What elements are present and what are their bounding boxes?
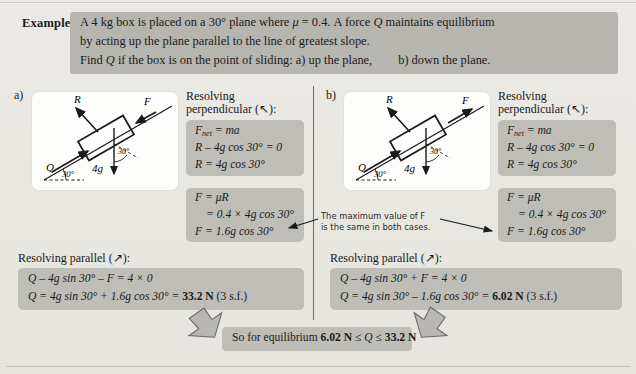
panel-b-perpendicular-block: Fnet = ma R – 4g cos 30° = 0 R = 4g cos … [498,120,616,176]
page-bottom-rule [6,366,630,367]
problem-line-2: by acting up the plane parallel to the l… [80,34,370,49]
svg-text:30°: 30° [429,147,442,156]
panel-a-par-eq-2-expr: Q = 4g sin 30° + 1.6g cos 30° = [28,290,182,303]
panel-b-perp-eq-3: R = 4g cos 30° [507,158,577,171]
panel-b-parallel-title: Resolving parallel (↗): [330,252,442,266]
problem-line-1-part-a: A 4 kg box is placed on a 30° plane wher… [80,15,292,29]
panel-b-perp-eq-1: Fnet = ma [507,124,552,138]
panel-a-parallel-block: Q – 4g sin 30° – F = 4 × 0 Q = 4g sin 30… [18,268,304,310]
panel-b-force-diagram: 30° R F Q 4g 30° [344,92,490,190]
fnet-ma-a: = ma [212,124,240,137]
label-R-b: R [385,93,393,105]
panel-a-parallel-title: Resolving parallel (↗): [18,252,130,266]
panel-b-par-eq-2-sf: (3 s.f.) [524,290,558,303]
conclusion-q: Q [364,331,372,344]
panel-a-perp-eq-2: R – 4g cos 30° = 0 [195,141,282,154]
annotation-note-line-2: is the same in both cases. [321,222,431,233]
panel-b-fric-eq-1: F = μR [507,191,541,204]
panel-a-perp-eq-3: R = 4g cos 30° [195,158,265,171]
label-Q-a: Q [46,161,54,173]
label-4g-a: 4g [92,162,104,174]
panel-a-fric-eq-2: = 0.4 × 4g cos 30° [206,208,294,221]
problem-statement-box: A 4 kg box is placed on a 30° plane wher… [70,12,618,74]
panel-b-perp-title-2: perpendicular (↖): [498,103,588,117]
conclusion-le-1: ≤ [352,331,364,344]
svg-text:30°: 30° [373,169,387,179]
label-F-a: F [143,95,151,107]
conclusion-min: 6.02 N [321,331,353,344]
problem-line-3: Find Q if the box is on the point of sli… [80,53,490,68]
panel-a-label: a) [14,88,23,103]
panel-a-force-diagram: 30° R F Q 4g 30° [32,92,178,190]
panel-b-fric-eq-2: = 0.4 × 4g cos 30° [518,208,606,221]
panel-b-par-eq-2-expr: Q = 4g sin 30° – 1.6g cos 30° = [340,290,492,303]
problem-line-3-part-b: if the box is on the point of sliding: a… [115,53,372,67]
conclusion-text: So for equilibrium 6.02 N ≤ Q ≤ 33.2 N [232,331,416,344]
problem-line-1-part-b: = 0.4. A force [299,15,374,29]
label-4g-b: 4g [404,162,416,174]
svg-text:30°: 30° [117,147,130,156]
panel-a-par-eq-2: Q = 4g sin 30° + 1.6g cos 30° = 33.2 N (… [28,290,247,303]
label-Q-b: Q [358,161,366,173]
fnet-ma-b: = ma [524,124,552,137]
panel-b-label: b) [326,88,336,103]
example-label: Example: [22,16,75,31]
fnet-sub-b: net [514,129,524,138]
panel-a-diagram-card: 30° R F Q 4g 30° [32,92,178,190]
page-top-rule [0,2,636,3]
problem-line-1: A 4 kg box is placed on a 30° plane wher… [80,15,495,30]
panel-b-fric-eq-3: F = 1.6g cos 30° [507,225,585,238]
example-header: Example: A 4 kg box is placed on a 30° p… [22,12,618,74]
panel-b-diagram-card: 30° R F Q 4g 30° [344,92,490,190]
panel-divider [313,86,314,320]
svg-text:30°: 30° [61,169,75,179]
panel-b-perp-eq-2: R – 4g cos 30° = 0 [507,141,594,154]
conclusion-max: 33.2 N [385,331,417,344]
annotation-note-line-1: The maximum value of F [321,211,425,222]
fnet-sub-a: net [202,129,212,138]
panel-b-par-eq-2: Q = 4g sin 30° – 1.6g cos 30° = 6.02 N (… [340,290,557,303]
panel-a-par-eq-1: Q – 4g sin 30° – F = 4 × 0 [28,272,153,285]
panel-a-friction-block: F = μR = 0.4 × 4g cos 30° F = 1.6g cos 3… [186,188,304,242]
panel-a-perp-title-2: perpendicular (↖): [186,103,276,117]
problem-line-3-part-a: Find [80,53,106,67]
conclusion-box: So for equilibrium 6.02 N ≤ Q ≤ 33.2 N [222,327,412,351]
panel-b-answer: 6.02 N [492,290,524,303]
problem-line-3-part-c: b) down the plane. [398,53,490,67]
panel-a-fric-eq-3: F = 1.6g cos 30° [195,225,273,238]
panel-a-fric-eq-1: F = μR [195,191,229,204]
conclusion-prefix: So for equilibrium [232,331,321,344]
q-symbol-2: Q [106,53,115,67]
panel-b-parallel-block: Q – 4g sin 30° + F = 4 × 0 Q = 4g sin 30… [330,268,622,310]
panel-a-par-eq-2-sf: (3 s.f.) [214,290,248,303]
label-F-b: F [461,94,469,106]
conclusion-le-2: ≤ [373,331,385,344]
panel-a-perpendicular-block: Fnet = ma R – 4g cos 30° = 0 R = 4g cos … [186,120,304,176]
label-R-a: R [73,93,81,105]
panel-a-answer: 33.2 N [182,290,214,303]
panel-a-perp-eq-1: Fnet = ma [195,124,240,138]
panel-b-friction-block: F = μR = 0.4 × 4g cos 30° F = 1.6g cos 3… [498,188,616,242]
note-arrow-right [440,219,492,231]
problem-line-1-part-c: maintains equilibrium [382,15,494,29]
panel-b-par-eq-1: Q – 4g sin 30° + F = 4 × 0 [340,272,467,285]
textbook-page: Example: A 4 kg box is placed on a 30° p… [0,0,636,374]
